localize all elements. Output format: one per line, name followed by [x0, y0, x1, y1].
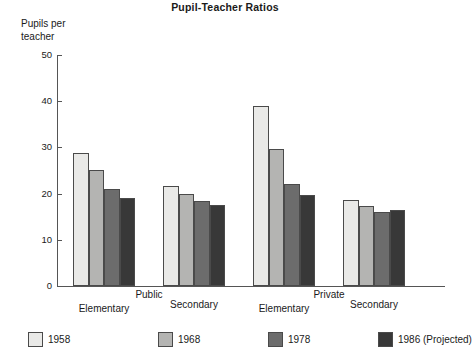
bar-1968-group-3 [359, 206, 375, 286]
y-axis-label: Pupils per teacher [21, 18, 65, 43]
bar-1968-group-1 [179, 194, 195, 286]
x-axis-line [57, 286, 445, 287]
legend-swatch-icon [158, 332, 173, 347]
bar-1958-group-3 [343, 200, 359, 286]
legend-item-1958: 1958 [28, 332, 70, 347]
y-tick-label-20: 20 [22, 189, 52, 199]
legend-swatch-icon [268, 332, 283, 347]
y-tick-label-50: 50 [22, 50, 52, 60]
bar-1986-projected--group-1 [210, 205, 226, 286]
legend-label: 1978 [288, 335, 310, 345]
legend-label: 1968 [178, 335, 200, 345]
legend-swatch-icon [28, 332, 43, 347]
y-tick-label-0: 0 [22, 281, 52, 291]
bar-1978-group-2 [284, 184, 300, 286]
x-group-header-public: Public [94, 289, 204, 300]
bar-1968-group-2 [269, 149, 285, 286]
bar-1986-projected--group-0 [120, 198, 136, 286]
bar-1958-group-2 [253, 106, 269, 286]
bar-1986-projected--group-2 [300, 195, 316, 286]
chart-title: Pupil-Teacher Ratios [0, 1, 450, 13]
plot-area [57, 55, 444, 286]
bar-1968-group-0 [89, 170, 105, 286]
legend-swatch-icon [378, 332, 393, 347]
legend-label: 1958 [48, 335, 70, 345]
bar-1978-group-0 [104, 189, 120, 286]
legend-item-1978: 1978 [268, 332, 310, 347]
chart-legend: 1958196819781986 (Projected) [0, 332, 450, 362]
x-group-header-private: Private [274, 289, 384, 300]
legend-label: 1986 (Projected) [398, 335, 472, 345]
x-category-label-3: Secondary [319, 299, 429, 310]
legend-item-1986-projected-: 1986 (Projected) [378, 332, 472, 347]
bar-1986-projected--group-3 [390, 210, 406, 286]
legend-item-1968: 1968 [158, 332, 200, 347]
bar-1958-group-1 [163, 186, 179, 286]
y-tick-label-10: 10 [22, 235, 52, 245]
y-tick-label-40: 40 [22, 96, 52, 106]
bar-1978-group-3 [374, 212, 390, 286]
bar-1958-group-0 [73, 153, 89, 286]
y-tick-0 [57, 286, 62, 287]
y-tick-label-30: 30 [22, 142, 52, 152]
bar-1978-group-1 [194, 201, 210, 286]
